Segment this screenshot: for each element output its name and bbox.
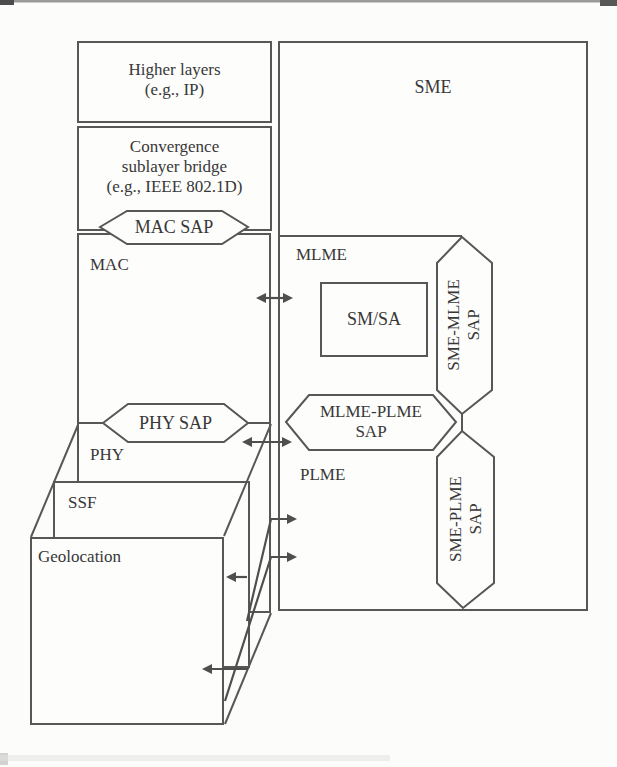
arrowhead-left-phy-plme — [242, 437, 252, 447]
mlme-plme-sap-line2: SAP — [355, 422, 386, 442]
mac-sap-label: MAC SAP — [100, 216, 248, 239]
arrowhead-geolocation-plme — [287, 552, 297, 562]
higher-layers-label: Higher layers (e.g., IP) — [77, 41, 272, 123]
arrowhead-to-geolocation-lower — [202, 664, 212, 674]
mac-label: MAC — [90, 254, 129, 275]
higher-layers-line1: Higher layers — [128, 60, 220, 80]
mlme-plme-sap-label: MLME-PLME SAP — [286, 398, 456, 446]
ssf-label: SSF — [68, 492, 96, 513]
sme-mlme-sap-line2: SAP — [464, 309, 484, 340]
convergence-line2: sublayer bridge — [122, 157, 227, 177]
scan-caption-smudge — [0, 755, 390, 761]
higher-layers-line2: (e.g., IP) — [145, 80, 204, 100]
geolocation-label: Geolocation — [38, 546, 121, 567]
depth-edge-top-left — [31, 425, 78, 537]
phy-sap-label: PHY SAP — [103, 412, 248, 435]
scan-top-edge-artifact — [0, 0, 617, 3]
convergence-line3: (e.g., IEEE 802.1D) — [107, 177, 243, 197]
convergence-line1: Convergence — [130, 137, 219, 157]
mlme-plme-sap-line1: MLME-PLME — [320, 402, 422, 422]
scan-top-right-mark — [600, 0, 617, 6]
arrowhead-to-geolocation-upper — [226, 572, 236, 582]
arrowhead-right-mac-mlme — [283, 293, 293, 303]
plme-label: PLME — [300, 464, 345, 485]
phy-label: PHY — [90, 444, 124, 465]
sme-plme-sap-label: SME-PLME SAP — [442, 439, 490, 599]
sme-plme-sap-line2: SAP — [466, 503, 486, 534]
mlme-label: MLME — [296, 244, 347, 265]
protocol-reference-model-diagram: Higher layers (e.g., IP) Convergence sub… — [0, 0, 617, 767]
sme-label: SME — [278, 76, 588, 99]
sm-sa-label: SM/SA — [320, 282, 428, 357]
arrowhead-left-mac-mlme — [256, 293, 266, 303]
sme-mlme-sap-label: SME-MLME SAP — [440, 245, 488, 405]
arrowhead-ssf-plme — [287, 514, 297, 524]
sme-plme-sap-line1: SME-PLME — [446, 476, 466, 562]
sme-mlme-sap-line1: SME-MLME — [444, 279, 464, 371]
scan-top-left-mark — [0, 0, 14, 5]
